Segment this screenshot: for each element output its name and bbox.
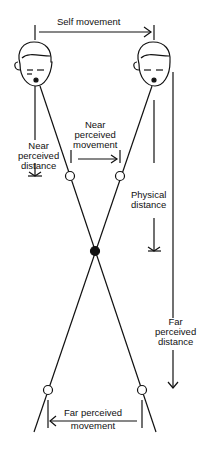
left-head-icon: [15, 42, 52, 86]
near-marker-right: [116, 172, 125, 181]
far-perceived-distance-label: Far perceived distance: [155, 317, 196, 347]
label-line: Far perceived: [64, 408, 122, 418]
label-line: movement: [64, 421, 122, 431]
label-line: distance: [131, 200, 166, 210]
near-marker-left: [66, 172, 75, 181]
physical-distance-label: Physical distance: [131, 190, 166, 210]
right-head-icon: [134, 42, 170, 86]
diagram-canvas: [0, 0, 209, 455]
near-perceived-distance-label: Near perceived distance: [18, 141, 59, 171]
self-movement-arrow: [35, 25, 154, 40]
physical-distance-line: [148, 100, 161, 251]
label-line: distance: [18, 161, 59, 171]
far-marker-left: [44, 386, 53, 395]
fixation-point: [91, 247, 100, 256]
far-marker-right: [138, 386, 147, 395]
label-line: movement: [73, 140, 117, 150]
near-perceived-movement-label: Near perceived movement: [73, 120, 117, 150]
self-movement-label: Self movement: [57, 17, 120, 27]
far-perceived-movement-label: Far perceived movement: [64, 408, 122, 431]
label-line: distance: [155, 337, 196, 347]
near-perceived-movement-arrow: [71, 150, 120, 163]
